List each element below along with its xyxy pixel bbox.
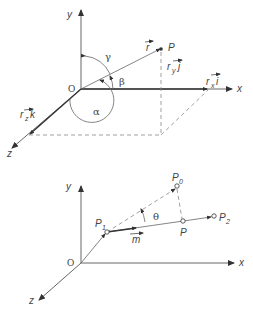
- line-p0-p: [177, 189, 182, 219]
- z-axis-label-bottom: z: [28, 295, 34, 306]
- beta-label: β: [119, 76, 125, 87]
- alpha-label: α: [93, 106, 100, 117]
- p0-label: P 0: [172, 172, 183, 185]
- line-p1-p0: [107, 189, 175, 232]
- svg-text:1: 1: [102, 224, 106, 231]
- theta-label: θ: [153, 211, 159, 222]
- svg-text:r: r: [167, 61, 171, 72]
- x-axis-label: x: [236, 83, 243, 94]
- rx-component-label: r x i: [206, 74, 220, 89]
- origin-label: O: [68, 83, 75, 94]
- origin-to-p1-line: [81, 234, 105, 263]
- svg-text:y: y: [171, 67, 176, 75]
- p-label: P: [180, 227, 187, 238]
- figure-bottom: y x z O P 0 P 1 P 2 P m θ: [28, 172, 245, 306]
- z-axis-label: z: [6, 148, 12, 159]
- x-axis-label-bottom: x: [238, 257, 245, 268]
- svg-text:r: r: [206, 76, 210, 87]
- ry-component-label: r y j: [167, 60, 182, 75]
- figure-top: y x z O P r r y j r x i r z k: [6, 9, 243, 159]
- svg-text:x: x: [210, 82, 215, 89]
- svg-text:P: P: [172, 172, 179, 183]
- projection-x-line: [161, 90, 208, 135]
- origin-label-bottom: O: [67, 257, 74, 268]
- point-p: [181, 219, 185, 223]
- svg-text:i: i: [216, 76, 219, 87]
- beta-arc: [110, 76, 113, 89]
- theta-arc: [141, 209, 145, 222]
- gamma-label: γ: [105, 51, 111, 62]
- svg-text:0: 0: [179, 178, 183, 185]
- m-vector: [107, 228, 136, 232]
- svg-text:r: r: [20, 109, 24, 120]
- rz-component-vector: [30, 89, 81, 134]
- p2-label: P 2: [219, 212, 230, 225]
- r-vector-label: r: [145, 41, 153, 53]
- point-p2: [212, 214, 216, 218]
- m-label: m: [130, 233, 143, 245]
- diagram-canvas: y x z O P r r y j r x i r z k: [0, 0, 253, 313]
- y-axis-label: y: [66, 9, 73, 20]
- svg-text:2: 2: [225, 218, 230, 225]
- alpha-arc: [70, 80, 114, 122]
- p1-label: P 1: [95, 218, 106, 231]
- svg-text:P: P: [219, 212, 226, 223]
- point-p-dot: [159, 47, 163, 51]
- svg-text:k: k: [30, 109, 36, 120]
- svg-text:r: r: [146, 42, 150, 53]
- svg-text:P: P: [95, 218, 102, 229]
- svg-text:j: j: [176, 61, 181, 72]
- z-axis-bottom: [39, 263, 81, 300]
- rz-component-label: r z k: [20, 109, 36, 122]
- svg-text:m: m: [132, 234, 140, 245]
- y-axis-label-bottom: y: [65, 181, 72, 192]
- svg-text:z: z: [24, 115, 29, 122]
- point-p-label: P: [168, 42, 175, 53]
